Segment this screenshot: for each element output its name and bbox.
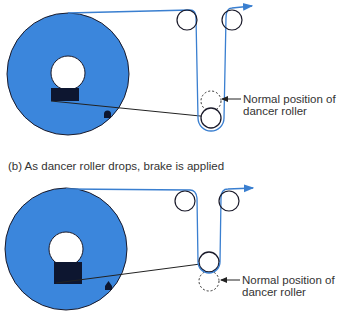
- brake-block: [54, 262, 82, 284]
- reel-hub: [49, 232, 83, 266]
- guide-roller-right: [222, 10, 242, 30]
- brake-pivot-icon: [104, 111, 111, 118]
- guide-roller-right: [219, 191, 239, 211]
- label-line-1: Normal position of: [242, 274, 335, 286]
- dancer-roller: [199, 252, 219, 272]
- guide-roller-left: [177, 10, 197, 30]
- panel-b: [5, 188, 253, 310]
- normal-position-outline: [199, 271, 219, 291]
- panel-b-dancer-label: Normal position of dancer roller: [242, 274, 335, 298]
- label-line-2: dancer roller: [242, 286, 335, 298]
- brake-block: [51, 88, 79, 101]
- reel-hub: [51, 56, 85, 90]
- label-line-1: Normal position of: [243, 93, 336, 105]
- panel-a-dancer-label: Normal position of dancer roller: [243, 93, 336, 117]
- label-line-2: dancer roller: [243, 105, 336, 117]
- panel-a: [7, 6, 252, 135]
- guide-roller-left: [175, 191, 195, 211]
- dancer-roller: [201, 108, 221, 128]
- panel-b-caption: (b) As dancer roller drops, brake is app…: [8, 160, 224, 172]
